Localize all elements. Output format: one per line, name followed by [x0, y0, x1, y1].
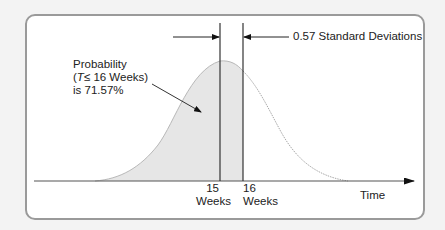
probability-line-1: Probability	[73, 58, 148, 71]
tick-value: 15	[196, 182, 222, 195]
probability-line-3: is 71.57%	[73, 84, 148, 97]
tick-unit: Weeks	[196, 195, 222, 208]
variable-t: T	[77, 71, 84, 83]
tick-label-15-weeks: 15 Weeks	[196, 182, 222, 208]
tick-unit: Weeks	[243, 195, 278, 208]
condition-text: ≤ 16 Weeks)	[84, 71, 148, 83]
normal-curve-right-tail	[243, 71, 348, 181]
probability-annotation: Probability (T≤ 16 Weeks) is 71.57%	[73, 58, 148, 97]
std-dev-label: 0.57 Standard Deviations	[293, 30, 422, 43]
tick-label-16-weeks: 16 Weeks	[243, 182, 278, 208]
probability-line-2: (T≤ 16 Weeks)	[73, 71, 148, 84]
tick-value: 16	[243, 182, 278, 195]
x-axis-label: Time	[360, 189, 385, 202]
diagram-canvas: Probability (T≤ 16 Weeks) is 71.57% 0.57…	[0, 0, 445, 230]
